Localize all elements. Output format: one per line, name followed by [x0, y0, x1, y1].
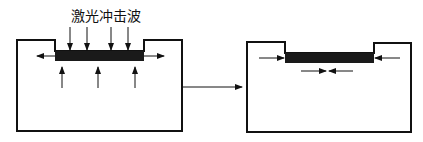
- shock-wave-arrows: [70, 27, 128, 50]
- upward-reaction-arrows: [62, 67, 135, 88]
- shock-layer-bar: [55, 51, 144, 61]
- workpiece-after: [247, 42, 411, 132]
- diagram-canvas: [0, 0, 423, 142]
- workpiece-before: [17, 40, 182, 131]
- treated-layer-bar: [285, 53, 374, 63]
